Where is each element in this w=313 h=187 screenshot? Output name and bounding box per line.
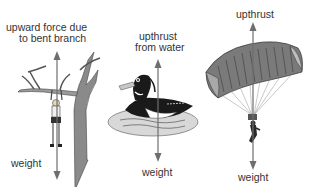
duck-illustration — [105, 0, 205, 187]
branch-icon — [18, 89, 78, 96]
branch-illustration — [0, 0, 105, 187]
parachute-canopy-icon — [206, 42, 303, 98]
parachutist-icon — [248, 114, 260, 143]
panel-branch: upward force due to bent branch weight — [0, 0, 105, 187]
tree-trunk-icon — [74, 52, 98, 187]
person-icon — [50, 90, 62, 147]
panel-duck: upthrust from water weight — [105, 0, 205, 187]
panel-parachute: upthrust weight — [200, 0, 313, 187]
parachute-illustration — [200, 0, 313, 187]
duck-icon — [119, 75, 193, 119]
